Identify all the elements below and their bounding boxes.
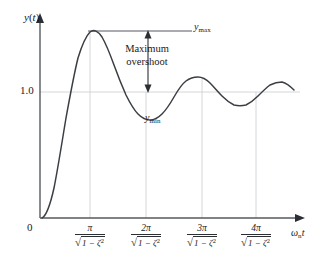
- radicand-4: 1 − ζ: [248, 238, 267, 248]
- x-tick-numerator-3: 3π: [187, 224, 217, 235]
- x-tick-label-4: 4π √1 − ζ2: [224, 224, 288, 249]
- x-axis-label-omega: ω: [291, 227, 298, 238]
- y-axis-label: y(t): [24, 12, 39, 23]
- maximum-overshoot-label: Maximum overshoot: [108, 42, 186, 69]
- radicand-3: 1 − ζ: [194, 238, 213, 248]
- y-max-label: ymax: [194, 22, 211, 34]
- x-tick-label-2: 2π √1 − ζ2: [114, 224, 178, 249]
- x-tick-denominator-3: √1 − ζ2: [187, 235, 217, 248]
- maximum-overshoot-line-2: overshoot: [108, 55, 186, 68]
- radical-4: √1 − ζ2: [241, 236, 271, 248]
- x-axis-label: ωnt: [291, 228, 304, 240]
- y-min-label: ymin: [145, 113, 161, 125]
- x-tick-fraction-4: 4π √1 − ζ2: [241, 224, 271, 249]
- x-tick-denominator-1: √1 − ζ2: [75, 235, 105, 248]
- radical-body-3: 1 − ζ2: [193, 236, 217, 248]
- radicand-2: 1 − ζ: [138, 238, 157, 248]
- radical-2: √1 − ζ2: [131, 236, 161, 248]
- radicand-exponent-1: 2: [101, 237, 104, 244]
- x-tick-fraction-2: 2π √1 − ζ2: [131, 224, 161, 249]
- x-tick-fraction-1: π √1 − ζ2: [75, 224, 105, 249]
- steady-state-value-label: 1.0: [20, 85, 34, 96]
- radicand-exponent-4: 2: [267, 237, 270, 244]
- radical-body-2: 1 − ζ2: [137, 236, 161, 248]
- y-axis-label-paren-close: ): [36, 11, 40, 23]
- maximum-overshoot-line-1: Maximum: [108, 42, 186, 55]
- figure-root: y(t) ωnt 0 1.0 ymax ymin Maximum oversho…: [0, 0, 325, 274]
- x-tick-numerator-2: 2π: [131, 224, 161, 235]
- y-max-subscript: max: [198, 26, 210, 34]
- radicand-exponent-3: 2: [213, 237, 216, 244]
- x-tick-numerator-4: 4π: [241, 224, 271, 235]
- radical-body-4: 1 − ζ2: [247, 236, 271, 248]
- radical-3: √1 − ζ2: [187, 236, 217, 248]
- x-tick-fraction-3: 3π √1 − ζ2: [187, 224, 217, 249]
- x-tick-denominator-2: √1 − ζ2: [131, 235, 161, 248]
- x-axis-label-time: t: [302, 227, 305, 238]
- x-axis-arrowhead-icon: [295, 214, 305, 222]
- radicand-exponent-2: 2: [157, 237, 160, 244]
- radical-1: √1 − ζ2: [75, 236, 105, 248]
- x-tick-numerator-1: π: [75, 224, 105, 235]
- y-min-subscript: min: [149, 117, 160, 125]
- x-tick-label-1: π √1 − ζ2: [58, 224, 122, 249]
- origin-label: 0: [27, 222, 33, 233]
- x-tick-denominator-4: √1 − ζ2: [241, 235, 271, 248]
- radical-body-1: 1 − ζ2: [81, 236, 105, 248]
- radicand-1: 1 − ζ: [82, 238, 101, 248]
